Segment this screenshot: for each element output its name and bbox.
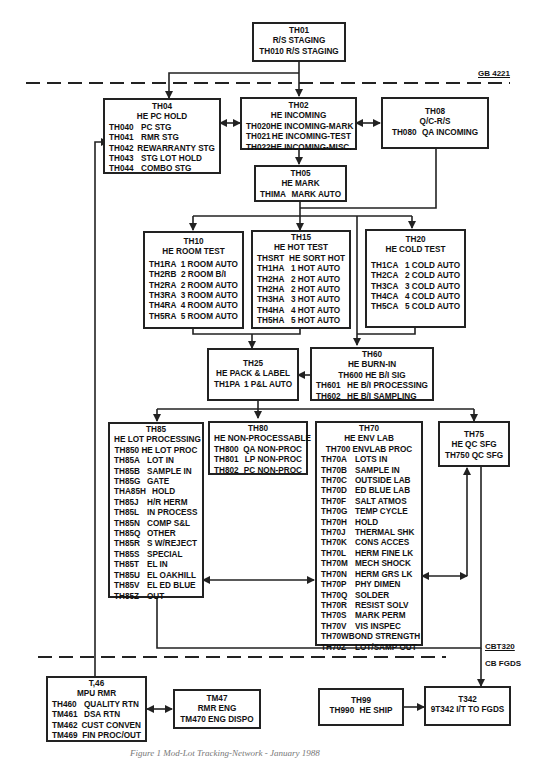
- node-row: TH5HA5 HOT AUTO: [257, 316, 345, 326]
- node-row: TM469FIN PROC/OUT: [52, 731, 141, 741]
- node-row: TH85LIN PROCESS: [114, 508, 198, 518]
- node-title: HE INCOMING: [246, 111, 351, 121]
- node-id: TH04: [109, 102, 215, 112]
- node-row: TH460QUALITY RTN: [52, 700, 141, 710]
- node-th10: TH10 HE ROOM TEST TH1RA1 ROOM AUTO TH2RB…: [143, 231, 244, 329]
- node-id: TH05: [260, 169, 341, 179]
- node-id: TH08: [387, 107, 483, 117]
- node-line: 9T342 I/T TO FGDS: [430, 705, 505, 715]
- node-row: THA85HHOLD: [114, 487, 198, 497]
- node-title: HE PC HOLD: [109, 112, 215, 122]
- node-row: TH70KCONS ACCES: [321, 538, 417, 548]
- node-row: TH70JTHERMAL SHK: [321, 528, 417, 538]
- node-id: TH70: [321, 424, 417, 434]
- node-row: TH040PC STG: [109, 123, 215, 133]
- node-row: TH70MMECH SHOCK: [321, 559, 417, 569]
- node-title: HE COLD TEST: [371, 245, 460, 255]
- node-id: TH20: [371, 235, 460, 245]
- node-row: TH3RA3 ROOM AUTO: [149, 291, 238, 301]
- node-row: TH2HA2 HOT AUTO: [257, 275, 345, 285]
- node-row: TH5RA5 ROOM AUTO: [149, 312, 238, 322]
- node-row: TH2RB2 ROOM B/I: [149, 270, 238, 280]
- node-id: TH15: [257, 233, 345, 243]
- node-row: TH044COMBO STG: [109, 164, 215, 174]
- node-row: TM462CUST CONVEN: [52, 721, 141, 731]
- node-t342: T342 9T342 I/T TO FGDS: [424, 686, 511, 726]
- boundary-label-cb-fgds: CB FGDS: [485, 659, 521, 668]
- node-th04: TH04 HE PC HOLD TH040PC STG TH041RMR STG…: [103, 98, 221, 174]
- node-row: TH802PC NON-PROC: [214, 466, 302, 476]
- figure-caption: Figure 1 Mod-Lot Tracking-Network - Janu…: [130, 748, 320, 758]
- node-row: TH70GTEMP CYCLE: [321, 507, 417, 517]
- node-tm47: TM47 RMR ENG TM470 ENG DISPO: [173, 689, 261, 729]
- node-row: TH85SSPECIAL: [114, 550, 198, 560]
- node-row: TH4RA4 ROOM AUTO: [149, 301, 238, 311]
- node-row: THIMAMARK AUTO: [260, 190, 341, 200]
- node-title: HE NON-PROCESSABLE: [214, 434, 302, 444]
- node-row: TH990HE SHIP: [324, 706, 398, 716]
- node-row: TH70WBOND STRENGTH: [321, 632, 417, 642]
- node-title: HE ROOM TEST: [149, 247, 238, 257]
- node-row: TH85BSAMPLE IN: [114, 467, 198, 477]
- node-row: TH3HA3 HOT AUTO: [257, 295, 345, 305]
- node-th02: TH02 HE INCOMING TH020HE INCOMING-MARK T…: [240, 97, 357, 150]
- node-id: TH02: [246, 101, 351, 111]
- node-line: TH750 QC SFG: [444, 451, 504, 461]
- node-row: TH70COUTSIDE LAB: [321, 476, 417, 486]
- node-subtitle: TH600 HE B/I SIG: [316, 371, 428, 381]
- node-row: TH1CA1 COLD AUTO: [371, 261, 460, 271]
- node-row: TH1HA1 HOT AUTO: [257, 264, 345, 274]
- node-th70: TH70 HE ENV LAB TH700 ENVLAB PROC TH70AL…: [315, 421, 423, 646]
- boundary-label-gb4221: GB 4221: [478, 69, 510, 78]
- node-row: THSRTHE SORT HOT: [257, 254, 345, 264]
- node-row: TH022HE INCOMING-MISC.: [246, 143, 351, 153]
- node-row: TH85NCOMP S&L: [114, 519, 198, 529]
- node-line: TM470 ENG DISPO: [179, 715, 255, 725]
- node-row: TH85ZOUT: [114, 592, 198, 602]
- node-title: HE LOT PROCESSING: [114, 435, 198, 445]
- node-row: TH70DED BLUE LAB: [321, 486, 417, 496]
- node-id: TH60: [316, 350, 428, 360]
- node-subtitle: TH700 ENVLAB PROC: [321, 445, 417, 455]
- node-row: TH70ZLOT/SAMP OUT: [321, 643, 417, 653]
- node-row: TH70NHERM GRS LK: [321, 570, 417, 580]
- node-row: TH70SMARK PERM: [321, 611, 417, 621]
- node-row: TH85TEL IN: [114, 560, 198, 570]
- node-id: TH99: [324, 696, 398, 706]
- node-row: TH85UEL OAKHILL: [114, 571, 198, 581]
- node-th05: TH05 HE MARK THIMAMARK AUTO: [254, 165, 347, 202]
- node-id: T342: [430, 695, 505, 705]
- node-t46: T,46 MPU RMR TH460QUALITY RTN TM461DSA R…: [46, 676, 147, 742]
- node-row: TH2CA2 COLD AUTO: [371, 271, 460, 281]
- node-row: TH801LP NON-PROC: [214, 455, 302, 465]
- node-title: HE PACK & LABEL: [213, 369, 293, 379]
- node-title: R/S STAGING: [258, 36, 340, 46]
- node-row: TH85GGATE: [114, 477, 198, 487]
- node-row: TH080QA INCOMING: [387, 128, 483, 138]
- node-line: TH010 R/S STAGING: [258, 47, 340, 57]
- node-title: MPU RMR: [52, 689, 141, 699]
- node-title: HE ENV LAB: [321, 434, 417, 444]
- node-id: TH85: [114, 425, 198, 435]
- node-row: TH70LHERM FINE LK: [321, 549, 417, 559]
- node-title: HE MARK: [260, 179, 341, 189]
- node-id: TH80: [214, 424, 302, 434]
- node-id: T,46: [52, 679, 141, 689]
- node-row: TH800QA NON-PROC: [214, 445, 302, 455]
- node-row: TH70VVIS INSPEC: [321, 622, 417, 632]
- node-row: TH85ALOT IN: [114, 456, 198, 466]
- node-row: TH043STG LOT HOLD: [109, 154, 215, 164]
- node-row: TH85QOTHER: [114, 529, 198, 539]
- node-row: TH601HE B/I PROCESSING: [316, 381, 428, 391]
- node-row: TH020HE INCOMING-MARK: [246, 122, 351, 132]
- node-row: TH70ALOTS IN: [321, 455, 417, 465]
- node-row: TH2RA2 ROOM AUTO: [149, 281, 238, 291]
- node-row: TH85JH/R HERM: [114, 498, 198, 508]
- node-title: HE HOT TEST: [257, 243, 345, 253]
- node-subtitle: TH850 HE LOT PROC: [114, 446, 198, 456]
- node-row: TH4HA4 HOT AUTO: [257, 306, 345, 316]
- node-row: TH85RS W/REJECT: [114, 539, 198, 549]
- node-row: TH602HE B/I SAMPLING: [316, 392, 428, 402]
- node-title: Q/C-R/S: [387, 117, 483, 127]
- node-row: TH041RMR STG: [109, 133, 215, 143]
